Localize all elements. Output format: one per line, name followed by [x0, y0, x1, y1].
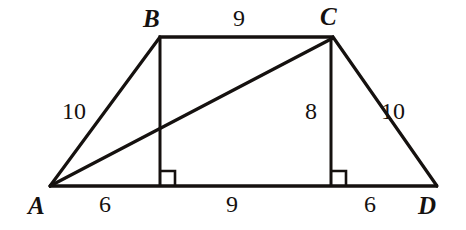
- length-label-a-to-foot-b: 6: [99, 192, 111, 216]
- length-label-bc: 9: [233, 6, 245, 30]
- geometry-figure: A B C D 10 9 10 8 6 9 6: [0, 0, 466, 230]
- length-label-ab: 10: [62, 99, 86, 123]
- vertex-label-d: D: [418, 193, 436, 218]
- length-label-cd: 10: [381, 99, 405, 123]
- vertex-label-c: C: [320, 4, 337, 29]
- vertex-label-a: A: [28, 193, 45, 218]
- right-angle-marker-c: [331, 171, 346, 186]
- length-label-altitude-c: 8: [305, 99, 317, 123]
- length-label-foot-c-to-d: 6: [364, 192, 376, 216]
- length-label-foot-b-to-foot-c: 9: [226, 192, 238, 216]
- right-angle-marker-b: [160, 171, 175, 186]
- vertex-label-b: B: [143, 6, 160, 31]
- segment-ac-diagonal: [50, 38, 333, 186]
